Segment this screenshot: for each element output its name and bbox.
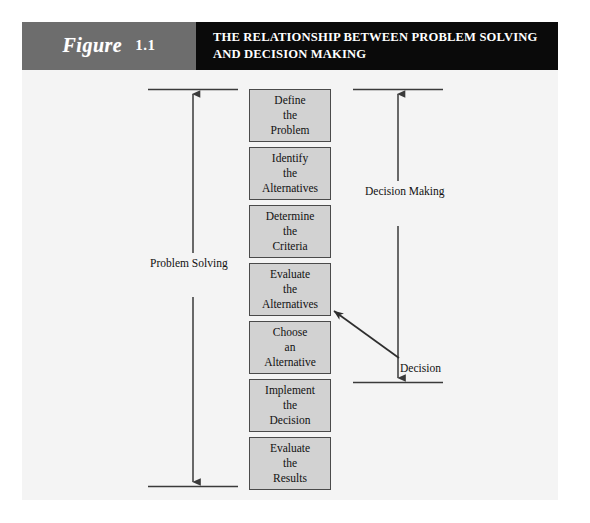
figure-title: THE RELATIONSHIP BETWEEN PROBLEM SOLVING… (213, 29, 548, 62)
step-line: the (283, 224, 297, 239)
step-box-determine-the-criteria: Determine the Criteria (249, 205, 331, 258)
step-line: the (283, 456, 297, 471)
decision-making-label: Decision Making (360, 182, 446, 201)
decision-callout-label: Decision (400, 361, 441, 376)
step-box-evaluate-the-results: Evaluate the Results (249, 437, 331, 490)
step-box-choose-an-alternative: Choose an Alternative (249, 321, 331, 374)
bracket-label-line: Problem (150, 257, 189, 269)
step-box-implement-the-decision: Implement the Decision (249, 379, 331, 432)
step-line: Results (273, 471, 307, 486)
step-line: the (283, 282, 297, 297)
problem-solving-bracket (148, 90, 238, 487)
figure-label-box: Figure 1.1 (22, 22, 196, 70)
step-line: the (283, 398, 297, 413)
decision-callout-arrow (334, 311, 399, 358)
figure-title-box: THE RELATIONSHIP BETWEEN PROBLEM SOLVING… (196, 22, 558, 70)
step-line: Choose (273, 325, 308, 340)
step-line: Alternative (264, 355, 316, 370)
step-line: Implement (265, 383, 315, 398)
figure-header: Figure 1.1 THE RELATIONSHIP BETWEEN PROB… (22, 22, 558, 70)
step-line: Evaluate (270, 441, 310, 456)
bracket-label-line: Decision (365, 185, 406, 197)
step-line: an (285, 340, 296, 355)
step-line: Evaluate (270, 267, 310, 282)
bracket-label-line: Making (409, 185, 445, 197)
figure-number: 1.1 (135, 37, 155, 54)
step-line: Alternatives (262, 181, 318, 196)
process-step-list: Define the Problem Identify the Alternat… (249, 89, 331, 495)
problem-solving-label: Problem Solving (145, 254, 229, 273)
bracket-label-line: Solving (192, 257, 228, 269)
step-box-identify-the-alternatives: Identify the Alternatives (249, 147, 331, 200)
step-line: Decision (270, 413, 311, 428)
step-box-define-the-problem: Define the Problem (249, 89, 331, 142)
figure-panel: Figure 1.1 THE RELATIONSHIP BETWEEN PROB… (22, 22, 558, 500)
step-line: Criteria (272, 239, 307, 254)
step-line: the (283, 108, 297, 123)
step-box-evaluate-the-alternatives: Evaluate the Alternatives (249, 263, 331, 316)
diagram-canvas: Define the Problem Identify the Alternat… (22, 70, 558, 500)
step-line: Identify (272, 151, 308, 166)
step-line: Define (274, 93, 305, 108)
step-line: Alternatives (262, 297, 318, 312)
step-line: Problem (271, 123, 310, 138)
decision-making-bracket (353, 90, 443, 383)
step-line: Determine (266, 209, 315, 224)
figure-word: Figure (63, 34, 123, 57)
step-line: the (283, 166, 297, 181)
